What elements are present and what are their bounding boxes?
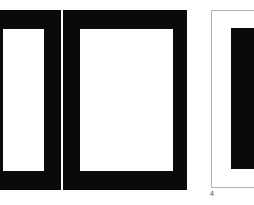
side-panel: [211, 10, 254, 188]
frame-gutter: [61, 8, 63, 192]
center-frame-aperture: [80, 29, 173, 171]
figure-canvas: 4: [0, 0, 254, 205]
figure-caption: 4: [210, 189, 214, 198]
side-panel-block: [231, 28, 254, 169]
left-frame-aperture: [3, 29, 44, 171]
center-frame: [63, 10, 187, 190]
left-frame: [0, 10, 61, 190]
